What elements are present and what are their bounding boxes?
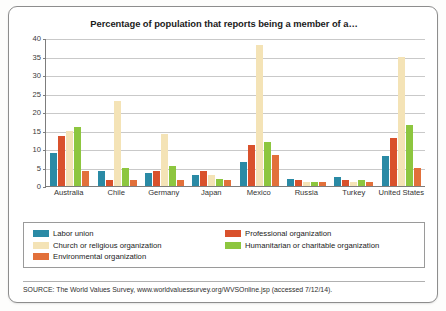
bar[interactable] bbox=[82, 171, 89, 186]
legend-label: Humanitarian or charitable organization bbox=[245, 241, 379, 250]
bar[interactable] bbox=[98, 171, 105, 186]
source-divider bbox=[23, 281, 425, 282]
legend-swatch bbox=[225, 230, 241, 237]
bar[interactable] bbox=[272, 155, 279, 186]
bar[interactable] bbox=[208, 175, 215, 186]
source-text: SOURCE: The World Values Survey, www.wor… bbox=[23, 286, 425, 294]
x-axis-tick-labels: AustraliaChileGermanyJapanMexicoRussiaTu… bbox=[45, 189, 425, 198]
x-tick-label: Mexico bbox=[235, 189, 283, 198]
bar[interactable] bbox=[414, 168, 421, 187]
bar-groups bbox=[46, 39, 425, 186]
x-tick-label: Japan bbox=[188, 189, 236, 198]
bar[interactable] bbox=[58, 136, 65, 186]
legend-swatch bbox=[33, 242, 49, 249]
bar[interactable] bbox=[319, 182, 326, 186]
plot-area: 0510152025303540 AustraliaChileGermanyJa… bbox=[25, 39, 425, 207]
x-tick-label: Australia bbox=[45, 189, 93, 198]
y-axis-tick-labels: 0510152025303540 bbox=[25, 39, 43, 187]
bar[interactable] bbox=[390, 138, 397, 186]
legend-label: Labor union bbox=[53, 229, 94, 238]
bar[interactable] bbox=[177, 180, 184, 186]
y-tick-label: 25 bbox=[33, 91, 41, 99]
x-tick-label: United States bbox=[378, 189, 426, 198]
bar[interactable] bbox=[145, 173, 152, 186]
y-tick-label: 30 bbox=[33, 72, 41, 80]
bar[interactable] bbox=[342, 180, 349, 186]
bar[interactable] bbox=[303, 182, 310, 186]
bar-group bbox=[283, 39, 330, 186]
bar-group bbox=[236, 39, 283, 186]
bar-group bbox=[378, 39, 425, 186]
bar[interactable] bbox=[264, 142, 271, 186]
bar-group bbox=[141, 39, 188, 186]
legend-swatch bbox=[33, 230, 49, 237]
bar[interactable] bbox=[334, 177, 341, 186]
bar[interactable] bbox=[406, 125, 413, 186]
bar[interactable] bbox=[130, 180, 137, 186]
bar[interactable] bbox=[169, 166, 176, 186]
legend-label: Environmental organization bbox=[53, 252, 146, 261]
y-tick-label: 15 bbox=[33, 128, 41, 136]
bar[interactable] bbox=[200, 171, 207, 186]
legend-swatch bbox=[225, 242, 241, 249]
legend-item[interactable]: Professional organization bbox=[225, 229, 417, 238]
y-tick-label: 5 bbox=[37, 165, 41, 173]
y-tick-label: 35 bbox=[33, 54, 41, 62]
plot-canvas bbox=[45, 39, 425, 187]
bar[interactable] bbox=[66, 131, 73, 187]
bar[interactable] bbox=[240, 162, 247, 186]
y-tick-label: 40 bbox=[33, 35, 41, 43]
bar-group bbox=[330, 39, 377, 186]
y-tick-label: 0 bbox=[37, 183, 41, 191]
bar[interactable] bbox=[350, 182, 357, 186]
bar[interactable] bbox=[295, 180, 302, 186]
bar-group bbox=[188, 39, 235, 186]
legend-swatch bbox=[33, 253, 49, 260]
bar[interactable] bbox=[161, 134, 168, 186]
legend-label: Professional organization bbox=[245, 229, 331, 238]
bar[interactable] bbox=[311, 182, 318, 186]
legend-item[interactable]: Labor union bbox=[33, 229, 225, 238]
y-tick-label: 10 bbox=[33, 146, 41, 154]
bar[interactable] bbox=[192, 175, 199, 186]
x-tick-label: Germany bbox=[140, 189, 188, 198]
source-note: SOURCE: The World Values Survey, www.wor… bbox=[23, 281, 425, 294]
bar[interactable] bbox=[74, 127, 81, 186]
bar[interactable] bbox=[248, 145, 255, 186]
bar[interactable] bbox=[216, 179, 223, 186]
bar[interactable] bbox=[398, 57, 405, 187]
legend-item[interactable]: Church or religious organization bbox=[33, 241, 225, 250]
chart-card: Percentage of population that reports be… bbox=[8, 6, 438, 303]
bar[interactable] bbox=[50, 153, 57, 186]
legend-item[interactable]: Environmental organization bbox=[33, 252, 225, 261]
chart-figure: Percentage of population that reports be… bbox=[0, 0, 446, 311]
x-tick-label: Chile bbox=[93, 189, 141, 198]
legend-label: Church or religious organization bbox=[53, 241, 162, 250]
x-tick-label: Turkey bbox=[330, 189, 378, 198]
bar[interactable] bbox=[106, 180, 113, 186]
bar[interactable] bbox=[122, 168, 129, 187]
bar[interactable] bbox=[114, 101, 121, 186]
bar-group bbox=[46, 39, 93, 186]
y-tick-mark bbox=[43, 187, 46, 188]
bar[interactable] bbox=[366, 182, 373, 186]
bar[interactable] bbox=[153, 171, 160, 186]
bar-group bbox=[93, 39, 140, 186]
x-tick-label: Russia bbox=[283, 189, 331, 198]
bar[interactable] bbox=[256, 45, 263, 186]
legend-item[interactable]: Humanitarian or charitable organization bbox=[225, 241, 417, 250]
y-tick-label: 20 bbox=[33, 109, 41, 117]
bar[interactable] bbox=[382, 156, 389, 186]
bar[interactable] bbox=[358, 180, 365, 186]
bar[interactable] bbox=[224, 180, 231, 186]
chart-legend: Labor unionProfessional organizationChur… bbox=[23, 222, 425, 268]
bar[interactable] bbox=[287, 179, 294, 186]
chart-title: Percentage of population that reports be… bbox=[9, 18, 439, 29]
